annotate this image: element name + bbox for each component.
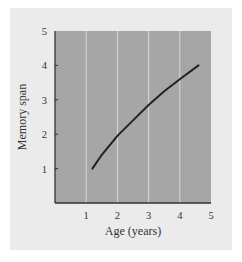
y-tick-label: 5 <box>42 26 47 37</box>
x-tick-label: 3 <box>146 210 151 221</box>
y-tick-label: 2 <box>42 129 47 140</box>
line-chart: 12345 12345 Age (years) Memory span <box>0 0 242 262</box>
x-tick-label: 5 <box>208 210 213 221</box>
y-tick-label: 3 <box>42 95 47 106</box>
y-axis-title: Memory span <box>15 84 29 150</box>
x-axis-ticks: 12345 <box>84 210 214 221</box>
y-tick-label: 1 <box>42 164 47 175</box>
plot-area <box>55 31 211 203</box>
y-tick-label: 4 <box>42 60 48 71</box>
x-tick-label: 1 <box>84 210 89 221</box>
x-tick-label: 2 <box>115 210 120 221</box>
x-axis-title: Age (years) <box>105 224 161 238</box>
x-tick-label: 4 <box>177 210 183 221</box>
